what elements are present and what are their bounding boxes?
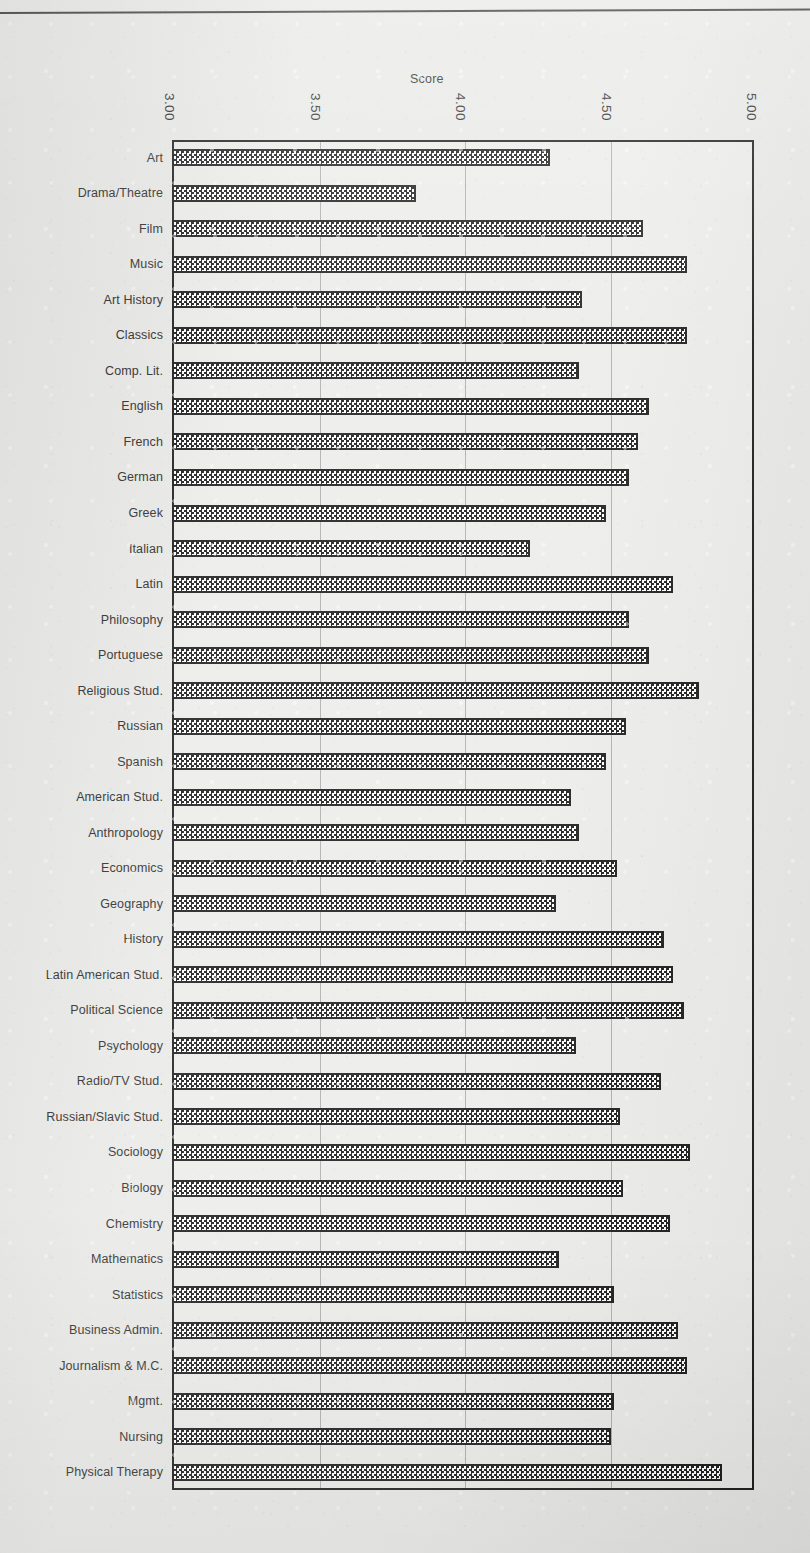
bar-row [172,531,754,567]
y-axis-label-row: Mathematics [0,1241,172,1277]
y-axis-label-row: Art History [0,282,172,318]
bar [172,1108,620,1125]
y-axis-label-row: Russian [0,708,172,744]
y-axis-label-row: Religious Stud. [0,673,172,709]
bar-row [172,566,754,602]
bar-row [172,1454,754,1490]
y-axis-label: Drama/Theatre [78,186,172,200]
bar [172,505,606,522]
y-axis-label-row: Psychology [0,1028,172,1064]
bar [172,1144,690,1161]
bar [172,469,629,486]
y-axis-label-row: Greek [0,495,172,531]
y-axis-label-row: Biology [0,1170,172,1206]
y-axis-label: Spanish [117,755,172,769]
bar [172,1215,670,1232]
y-axis-label: Film [139,222,172,236]
y-axis-label-row: Statistics [0,1277,172,1313]
bar-row [172,424,754,460]
y-axis-label: Russian [117,719,172,733]
bar-row [172,744,754,780]
bar-row [172,957,754,993]
bar [172,327,687,344]
y-axis-label-row: Music [0,247,172,283]
y-axis-label: Radio/TV Stud. [77,1074,172,1088]
bar [172,1002,684,1019]
y-axis-label: Latin American Stud. [46,968,172,982]
y-axis-label-row: Russian/Slavic Stud. [0,1099,172,1135]
x-tick-label-3-50: 3.50 [308,93,323,121]
bar-row [172,708,754,744]
bar [172,1322,678,1339]
y-axis-label: Philosophy [101,613,172,627]
bar-row [172,318,754,354]
bar [172,1180,623,1197]
y-axis-label-row: Italian [0,531,172,567]
y-axis-label-row: Sociology [0,1135,172,1171]
y-axis-label: American Stud. [76,790,172,804]
y-axis-label-row: Film [0,211,172,247]
y-axis-label: Anthropology [88,826,172,840]
y-axis-label-row: German [0,460,172,496]
y-axis-label: Nursing [119,1430,172,1444]
y-axis-label-row: Radio/TV Stud. [0,1064,172,1100]
x-tick-label-4-50: 4.50 [599,93,614,121]
y-axis-label-row: Journalism & M.C. [0,1348,172,1384]
bar-row [172,993,754,1029]
bar-row [172,460,754,496]
y-axis-label-row: Portuguese [0,637,172,673]
bar [172,291,582,308]
bar-row [172,1206,754,1242]
y-axis-label: Journalism & M.C. [59,1359,172,1373]
y-axis-label: English [121,399,172,413]
y-axis-label-row: Chemistry [0,1206,172,1242]
x-tick-label-3-00: 3.00 [162,93,177,121]
bar [172,540,530,557]
bar [172,256,687,273]
bar [172,398,649,415]
bar-row [172,282,754,318]
bar-row [172,176,754,212]
y-axis-label-row: Economics [0,851,172,887]
x-axis-title: Score [410,72,444,86]
y-axis-label: Physical Therapy [66,1465,172,1479]
bar-row [172,1348,754,1384]
bar-row [172,353,754,389]
y-axis-label: Mgmt. [128,1394,172,1408]
bar-row [172,602,754,638]
bar [172,149,550,166]
bar-row [172,495,754,531]
bar-row [172,247,754,283]
bar-row [172,673,754,709]
bar-row [172,1170,754,1206]
y-axis-label: Comp. Lit. [105,364,172,378]
y-axis-label: French [123,435,172,449]
bar [172,611,629,628]
y-axis-label-row: Art [0,140,172,176]
y-axis-label: Greek [128,506,172,520]
bar [172,576,673,593]
y-axis-label-row: French [0,424,172,460]
bar-row [172,1064,754,1100]
bar [172,1073,661,1090]
bar [172,860,617,877]
bar [172,185,416,202]
bar [172,1357,687,1374]
bar [172,753,606,770]
bar-row [172,1135,754,1171]
y-axis-label-row: History [0,922,172,958]
bar-row [172,1241,754,1277]
y-axis-label: Art [147,151,172,165]
bar [172,1286,614,1303]
bar-row [172,1099,754,1135]
bar-row [172,886,754,922]
bar [172,1464,722,1481]
bar-row [172,851,754,887]
y-axis-label-row: Classics [0,318,172,354]
y-axis-label-row: Geography [0,886,172,922]
bar [172,1393,614,1410]
y-axis-label-row: Spanish [0,744,172,780]
y-axis-label: History [123,932,172,946]
bar-row [172,1419,754,1455]
bar-row [172,211,754,247]
